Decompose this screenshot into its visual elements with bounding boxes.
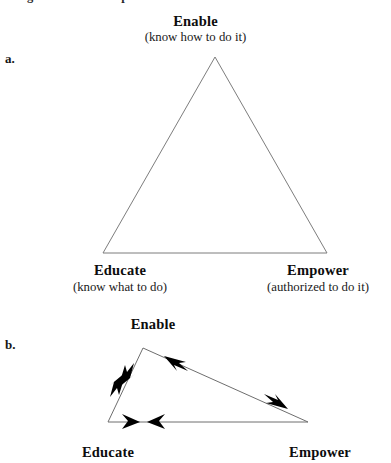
part-b-empower-title: Empower bbox=[260, 444, 380, 461]
figure-page: triangle of enabled empowerment a. Enabl… bbox=[0, 0, 391, 463]
part-b-triangle-outline bbox=[108, 348, 308, 422]
arrowhead-hypotenuse-toward-empower bbox=[264, 394, 288, 409]
part-b-triangle-svg bbox=[0, 0, 391, 463]
arrowhead-hypotenuse-toward-enable bbox=[164, 356, 188, 371]
part-b-empower-label: Empower bbox=[260, 444, 380, 461]
part-b-educate-title: Educate bbox=[48, 444, 168, 461]
part-b-educate-label: Educate bbox=[48, 444, 168, 461]
arrowhead-left-edge-toward-enable bbox=[109, 372, 126, 397]
